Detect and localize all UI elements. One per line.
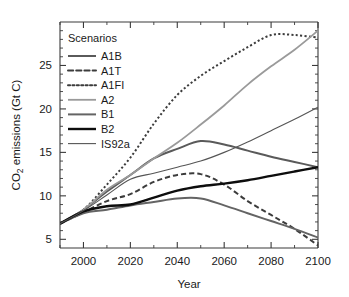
legend-item-a1t[interactable]: A1T <box>68 65 121 77</box>
x-tick-label: 2000 <box>71 255 97 267</box>
legend-label-a1t: A1T <box>101 65 121 77</box>
series-line-b2 <box>60 167 318 224</box>
x-tick-label: 2020 <box>118 255 144 267</box>
x-tick-label: 2080 <box>258 255 284 267</box>
legend-label-a1fi: A1FI <box>101 79 124 91</box>
y-tick-label: 20 <box>39 103 52 115</box>
y-tick-label: 10 <box>39 190 52 202</box>
legend-label-a2: A2 <box>101 94 114 106</box>
legend-label-is92a: IS92a <box>101 138 131 150</box>
y-tick-label: 25 <box>39 59 52 71</box>
chart-legend: Scenarios A1BA1TA1FIA2B1B2IS92a <box>68 32 131 150</box>
legend-label-b1: B1 <box>101 108 114 120</box>
co2-emissions-scenarios-chart: 200020202040206020802100510152025 Year C… <box>0 0 349 297</box>
y-axis-title: CO2 emissions (Gt C) <box>10 79 25 190</box>
y-tick-label: 15 <box>39 146 52 158</box>
legend-item-b2[interactable]: B2 <box>68 123 114 135</box>
x-tick-label: 2100 <box>305 255 331 267</box>
y-axis-title-pre: CO <box>10 173 22 190</box>
chart-canvas: 200020202040206020802100510152025 Year C… <box>0 0 349 297</box>
legend-label-a1b: A1B <box>101 50 122 62</box>
data-series-layer <box>60 31 318 246</box>
y-axis-title-post: emissions (Gt C) <box>10 79 22 168</box>
legend-item-a2[interactable]: A2 <box>68 94 114 106</box>
legend-label-b2: B2 <box>101 123 114 135</box>
legend-item-b1[interactable]: B1 <box>68 108 114 120</box>
x-tick-label: 2060 <box>211 255 237 267</box>
x-axis-title: Year <box>177 278 200 290</box>
tick-labels: 200020202040206020802100510152025 <box>39 59 331 267</box>
series-clip-group <box>60 31 318 246</box>
legend-title: Scenarios <box>68 32 117 44</box>
svg-text:CO2 emissions (Gt C): CO2 emissions (Gt C) <box>10 79 25 190</box>
series-line-a1t <box>60 173 318 245</box>
legend-items: A1BA1TA1FIA2B1B2IS92a <box>68 50 131 150</box>
series-line-a1fi <box>60 34 318 224</box>
legend-item-a1fi[interactable]: A1FI <box>68 79 124 91</box>
y-tick-label: 5 <box>46 233 52 245</box>
legend-item-is92a[interactable]: IS92a <box>68 138 131 150</box>
series-line-is92a <box>60 107 318 223</box>
x-tick-label: 2040 <box>164 255 190 267</box>
legend-item-a1b[interactable]: A1B <box>68 50 122 62</box>
